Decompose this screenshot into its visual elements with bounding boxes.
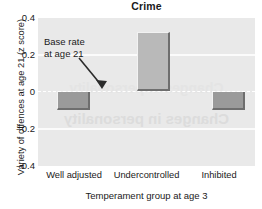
x-tick-label-undercontrolled: Undercontrolled	[110, 170, 183, 180]
bar-undercontrolled	[137, 32, 170, 91]
x-axis-title: Temperament group at age 3	[38, 190, 255, 201]
y-axis-title: Variety of offences at age 21 (z score)	[16, 7, 26, 187]
watermark-text: Changes in personality	[38, 110, 255, 127]
annotation-arrow-icon	[76, 56, 110, 94]
chart-title: Crime	[38, 0, 255, 12]
x-tick-label-inhibited: Inhibited	[183, 170, 255, 180]
gridline-negative	[38, 128, 255, 130]
zero-baseline	[38, 91, 255, 92]
x-tick-label-well-adjusted: Well adjusted	[38, 170, 110, 180]
x-axis: Well adjusted Undercontrolled Inhibited	[38, 170, 255, 184]
bar-inhibited	[212, 91, 245, 110]
annotation-line-1: Base rate	[44, 36, 85, 48]
chart-figure: Crime 0.4 0.2 0 –0.2 –0.4 Variety of off…	[0, 0, 262, 209]
